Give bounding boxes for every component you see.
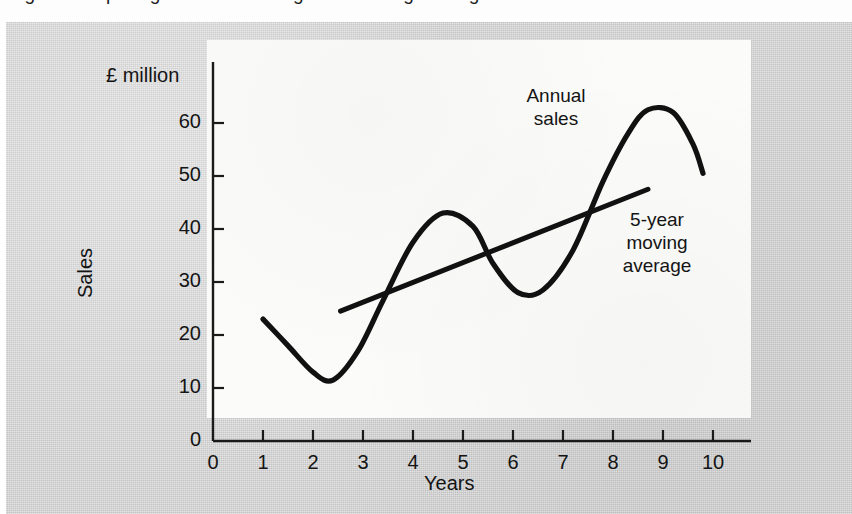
axis-lines xyxy=(213,62,751,441)
y-axis-ticks xyxy=(213,123,224,388)
series-line-annual-sales xyxy=(263,108,703,382)
figure-container: Figure comparing annual sales against mo… xyxy=(0,0,852,514)
chart-graphics xyxy=(0,0,852,514)
series-line-moving-average xyxy=(341,189,649,311)
x-axis-ticks xyxy=(263,430,713,441)
